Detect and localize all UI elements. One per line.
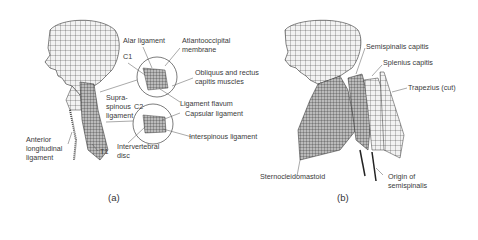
caption-panel-b: (b) [337,192,349,203]
label-supraspinous: Supra- [106,94,128,102]
caption-panel-a: (a) [108,192,120,203]
label-supraspinous-2: spinous [106,103,131,111]
label-trapezius-cut: Trapezius (cut) [408,84,456,92]
label-intervertebral-disc-2: disc [117,152,130,160]
label-sternocleidomastoid: Sternocleidomastoid [260,173,325,181]
label-supraspinous-3: ligament [106,112,133,120]
label-interspinous-ligament: Interspinous ligament [189,133,257,141]
label-obliquus-2: capitis muscles [195,78,244,86]
label-splenius-capitis: Splenius capitis [383,59,433,67]
label-semispinalis-capitis: Semispinalis capitis [366,43,429,51]
label-anterior-longitudinal: Anterior [26,136,51,144]
label-origin-semispinalis: Origin of [388,173,415,181]
label-ligament-flavum: Ligament flavum [180,100,233,108]
label-origin-semispinalis-2: semispinalis [388,182,427,190]
label-anterior-longitudinal-3: ligament [26,154,53,162]
panel-a-head-mesh [45,20,119,160]
label-obliquus: Obliquus and rectus [195,69,259,77]
label-anterior-longitudinal-2: longitudinal [26,145,62,153]
label-atlantooccipital-2: membrane [182,46,216,54]
label-t1: T1 [100,148,108,156]
label-c2: C2 [134,103,143,111]
label-intervertebral-disc: Intervertebral [117,143,159,151]
label-alar-ligament: Alar ligament [123,37,165,45]
label-c1: C1 [123,53,132,61]
label-capsular-ligament: Capsular ligament [185,110,243,118]
label-atlantooccipital: Atlantooccipital [182,37,230,45]
